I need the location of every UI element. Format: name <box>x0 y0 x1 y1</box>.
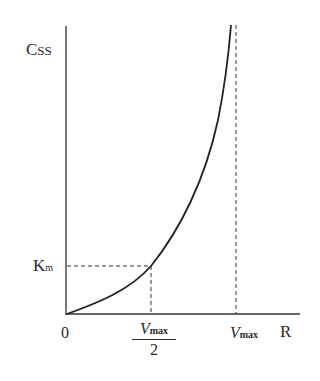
half-vmax-numerator-sub: max <box>150 325 168 336</box>
vmax-label-sub: max <box>240 329 258 340</box>
y-axis-label: CSS <box>26 40 52 60</box>
half-vmax-tick-label: Vmax 2 <box>132 320 176 359</box>
origin-label: 0 <box>61 324 69 342</box>
vmax-tick-label: Vmax <box>230 324 258 342</box>
vmax-label-main: V <box>230 324 240 341</box>
css-curve <box>67 25 231 314</box>
y-axis-label-main: C <box>26 40 37 59</box>
km-tick-label: Km <box>33 256 53 276</box>
km-label-main: K <box>33 256 45 275</box>
half-vmax-denominator: 2 <box>132 341 176 359</box>
km-label-sub: m <box>45 262 53 273</box>
half-vmax-numerator: V <box>140 320 150 337</box>
y-axis-label-sub: SS <box>37 43 51 58</box>
x-axis-label: R <box>280 322 291 342</box>
